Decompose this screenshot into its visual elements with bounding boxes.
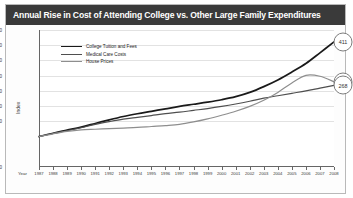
x-tick-mark (320, 167, 321, 170)
x-tick-mark (151, 167, 152, 170)
y-tick-label: 300 (0, 73, 2, 78)
legend-item: College Tuition and Fees (61, 43, 137, 51)
y-tick-label: 0 (0, 165, 2, 170)
x-tick-label: 2008 (329, 171, 338, 176)
chart-legend: College Tuition and FeesMedical Care Cos… (61, 43, 137, 66)
x-tick-mark (165, 167, 166, 170)
x-tick-label: 1992 (105, 171, 114, 176)
legend-swatch (61, 61, 82, 62)
x-tick-mark (95, 167, 96, 170)
x-tick-mark (292, 167, 293, 170)
x-tick-label: 2001 (231, 171, 240, 176)
y-tick-label: 450 (0, 28, 2, 33)
x-tick-label: 1998 (189, 171, 198, 176)
page-title: Annual Rise in Cost of Attending College… (13, 10, 321, 20)
x-tick-mark (208, 167, 209, 170)
chart-title-bar: Annual Rise in Cost of Attending College… (6, 5, 345, 25)
legend-label: House Prices (86, 59, 113, 64)
x-tick-mark (81, 167, 82, 170)
x-tick-mark (250, 167, 251, 170)
x-tick-mark (53, 167, 54, 170)
x-tick-label: 2006 (301, 171, 310, 176)
endpoint-callout: 411 (334, 32, 353, 51)
y-tick-label: 400 (0, 43, 2, 48)
x-tick-label: 1989 (62, 171, 71, 176)
y-axis-label: Index (15, 102, 21, 114)
legend-swatch (61, 54, 82, 55)
x-tick-label: 2003 (259, 171, 268, 176)
x-tick-mark (109, 167, 110, 170)
y-tick-label: 250 (0, 88, 2, 93)
x-tick-label: 1993 (119, 171, 128, 176)
x-tick-label: 1999 (203, 171, 212, 176)
endpoint-callout: 268 (334, 76, 353, 95)
x-tick-mark (236, 167, 237, 170)
x-tick-label: 2004 (273, 171, 282, 176)
x-tick-mark (264, 167, 265, 170)
x-tick-label: 1994 (133, 171, 142, 176)
x-tick-mark (334, 167, 335, 170)
x-tick-mark (67, 167, 68, 170)
x-tick-mark (222, 167, 223, 170)
x-tick-label: 1995 (147, 171, 156, 176)
plot-area: 0150200250300350400450 19871988198919901… (39, 30, 334, 167)
legend-item: Medical Care Costs (61, 51, 137, 59)
x-tick-mark (123, 167, 124, 170)
x-tick-label: 1997 (175, 171, 184, 176)
chart-frame: Annual Rise in Cost of Attending College… (5, 4, 346, 194)
x-tick-label: 1988 (48, 171, 57, 176)
legend-item: House Prices (61, 58, 137, 66)
x-tick-mark (194, 167, 195, 170)
x-tick-label: 1987 (34, 171, 43, 176)
series-line (39, 85, 334, 136)
x-axis-label: Year (18, 171, 27, 176)
x-tick-mark (179, 167, 180, 170)
legend-swatch (61, 46, 82, 47)
y-tick-label: 200 (0, 104, 2, 109)
x-tick-mark (39, 167, 40, 170)
x-tick-label: 1990 (76, 171, 85, 176)
x-tick-label: 1991 (91, 171, 100, 176)
x-tick-mark (306, 167, 307, 170)
x-tick-label: 2007 (315, 171, 324, 176)
x-tick-label: 2005 (287, 171, 296, 176)
x-tick-label: 2000 (217, 171, 226, 176)
legend-label: Medical Care Costs (86, 52, 126, 57)
x-tick-mark (137, 167, 138, 170)
y-tick-label: 350 (0, 58, 2, 63)
x-tick-label: 1996 (161, 171, 170, 176)
x-tick-label: 2002 (245, 171, 254, 176)
y-tick-label: 150 (0, 119, 2, 124)
legend-label: College Tuition and Fees (86, 44, 137, 49)
x-tick-mark (278, 167, 279, 170)
